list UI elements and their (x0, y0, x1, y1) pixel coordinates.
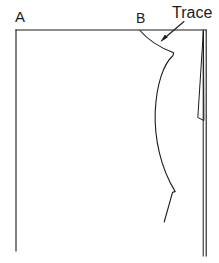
trace-arrow-head (161, 35, 167, 41)
point-label-b: B (136, 11, 145, 25)
trace-label: Trace (172, 5, 212, 21)
trace-curve (140, 31, 175, 223)
figure-canvas: A B Trace (0, 0, 219, 263)
pattern-line-drawing (0, 0, 219, 263)
point-label-a: A (15, 9, 25, 24)
